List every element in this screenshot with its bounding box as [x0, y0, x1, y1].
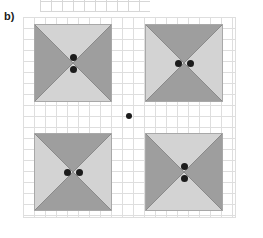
- dot-lower: [70, 66, 77, 73]
- dot-left: [175, 60, 182, 67]
- dot-lower: [181, 175, 188, 182]
- top-partial-panel-strip: [40, 0, 150, 12]
- figure-panel-b: b): [0, 0, 263, 238]
- dot-upper: [70, 54, 77, 61]
- panel-label: b): [4, 10, 14, 22]
- center-fixation-dot: [126, 113, 132, 119]
- shape-bottom-right-bowtie: [145, 133, 223, 211]
- shape-top-left-bowtie: [34, 24, 112, 102]
- grid-background: [23, 17, 236, 218]
- dot-right: [187, 60, 194, 67]
- dot-right: [76, 169, 83, 176]
- dot-left: [64, 169, 71, 176]
- dot-upper: [181, 163, 188, 170]
- shape-bottom-left-hourglass: [34, 133, 112, 211]
- shape-top-right-hourglass: [145, 24, 223, 102]
